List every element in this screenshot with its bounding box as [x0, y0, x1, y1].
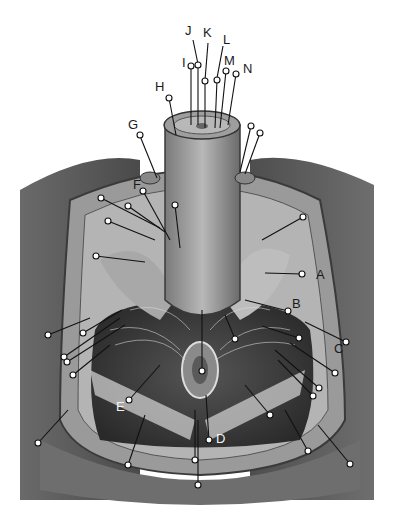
label-D: D: [216, 432, 225, 445]
label-N: N: [243, 62, 252, 75]
label-G: G: [128, 118, 138, 131]
label-K: K: [203, 26, 212, 39]
label-C: C: [334, 342, 343, 355]
label-J: J: [185, 24, 192, 37]
label-B: B: [292, 297, 301, 310]
anatomy-illustration: [0, 0, 394, 509]
label-L: L: [223, 33, 230, 46]
label-A: A: [316, 268, 325, 281]
label-M: M: [224, 54, 235, 67]
label-I: I: [182, 56, 186, 69]
label-E: E: [116, 400, 125, 413]
label-F: F: [133, 178, 141, 191]
label-H: H: [155, 80, 164, 93]
